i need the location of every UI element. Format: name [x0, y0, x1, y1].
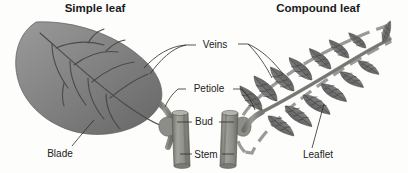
label-leaflet: Leaflet — [303, 149, 333, 160]
leaf-comparison-diagram: Simple leaf Compound leaf — [0, 0, 408, 173]
label-stem: Stem — [194, 149, 217, 160]
stem-left — [172, 113, 190, 166]
stem-right-cut-top — [222, 110, 238, 115]
stem-left-cut-top — [172, 110, 188, 115]
diagram-canvas: Simple leaf Compound leaf — [0, 0, 408, 173]
stem-left-cut-bottom — [174, 164, 190, 169]
label-petiole: Petiole — [194, 83, 225, 94]
heading-simple-leaf: Simple leaf — [65, 2, 126, 14]
label-blade: Blade — [47, 148, 73, 159]
label-bud: Bud — [195, 116, 213, 127]
heading-compound-leaf: Compound leaf — [276, 2, 360, 14]
stem-right-cut-bottom — [220, 164, 236, 169]
stem-right — [220, 113, 238, 166]
label-veins: Veins — [203, 39, 227, 50]
